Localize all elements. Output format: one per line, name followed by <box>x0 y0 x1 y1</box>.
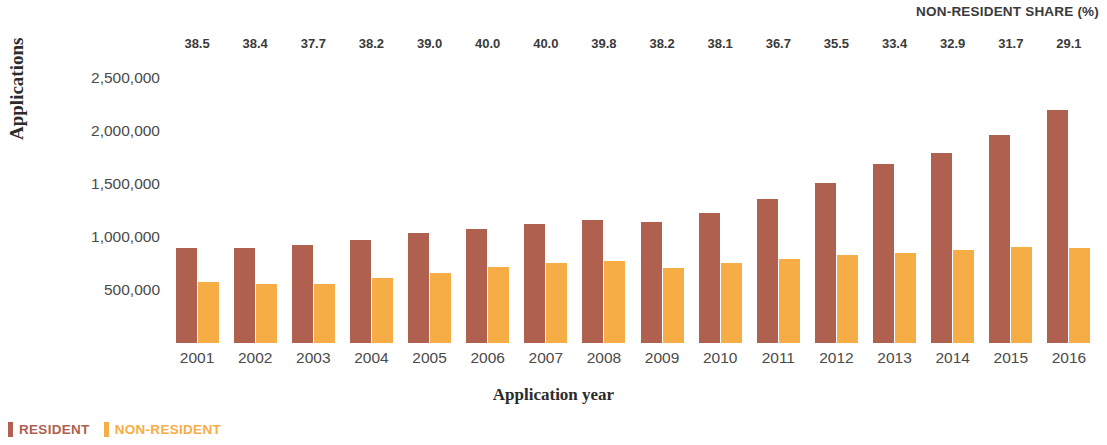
bar-resident[interactable] <box>234 248 255 343</box>
bar-group <box>989 62 1032 343</box>
bar-resident[interactable] <box>989 135 1010 343</box>
bar-resident[interactable] <box>466 229 487 343</box>
bar-resident[interactable] <box>931 153 952 343</box>
y-tick-label: 1,000,000 <box>48 228 160 246</box>
bar-resident[interactable] <box>757 199 778 343</box>
non-resident-share-header: NON-RESIDENT SHARE (%) <box>916 4 1099 19</box>
share-percent-label: 35.5 <box>807 36 865 51</box>
bar-group <box>1047 62 1090 343</box>
legend-swatch-icon <box>8 422 13 437</box>
bar-group <box>292 62 335 343</box>
x-tick-label: 2014 <box>924 349 982 367</box>
bar-group <box>757 62 800 343</box>
bar-group <box>466 62 509 343</box>
share-percent-label: 40.0 <box>459 36 517 51</box>
share-percent-label: 31.7 <box>982 36 1040 51</box>
share-percent-label: 38.2 <box>633 36 691 51</box>
share-percent-label: 33.4 <box>866 36 924 51</box>
bar-non-resident[interactable] <box>604 261 625 343</box>
bar-non-resident[interactable] <box>663 268 684 343</box>
x-tick-label: 2015 <box>982 349 1040 367</box>
share-percent-label: 29.1 <box>1040 36 1098 51</box>
share-percent-row: 38.538.437.738.239.040.040.039.838.238.1… <box>0 36 1107 54</box>
x-tick-label: 2011 <box>749 349 807 367</box>
bar-group <box>350 62 393 343</box>
x-tick-label: 2012 <box>807 349 865 367</box>
bar-resident[interactable] <box>815 183 836 343</box>
legend-label: RESIDENT <box>19 422 90 437</box>
x-tick-label: 2009 <box>633 349 691 367</box>
legend-item[interactable]: RESIDENT <box>8 422 90 437</box>
x-tick-label: 2001 <box>168 349 226 367</box>
x-axis-title: Application year <box>0 385 1107 405</box>
share-percent-label: 38.5 <box>168 36 226 51</box>
bar-group <box>641 62 684 343</box>
x-tick-label: 2005 <box>401 349 459 367</box>
bar-resident[interactable] <box>524 224 545 343</box>
x-tick-label: 2003 <box>284 349 342 367</box>
share-percent-label: 37.7 <box>284 36 342 51</box>
x-tick-label: 2004 <box>342 349 400 367</box>
bar-resident[interactable] <box>176 248 197 343</box>
bar-non-resident[interactable] <box>721 263 742 343</box>
bar-group <box>524 62 567 343</box>
y-axis-title: Applications <box>6 0 28 140</box>
bar-non-resident[interactable] <box>546 263 567 343</box>
legend-swatch-icon <box>104 422 109 437</box>
y-tick-label: 1,500,000 <box>48 175 160 193</box>
bar-group <box>234 62 277 343</box>
bar-group <box>699 62 742 343</box>
bar-non-resident[interactable] <box>895 253 916 343</box>
x-tick-label: 2013 <box>866 349 924 367</box>
bar-resident[interactable] <box>1047 110 1068 343</box>
bar-non-resident[interactable] <box>779 259 800 343</box>
bar-resident[interactable] <box>582 220 603 343</box>
x-tick-label: 2016 <box>1040 349 1098 367</box>
chart-legend: RESIDENTNON-RESIDENT <box>8 422 221 437</box>
y-tick-label: 500,000 <box>48 281 160 299</box>
share-percent-label: 38.2 <box>342 36 400 51</box>
bar-group <box>176 62 219 343</box>
x-tick-label: 2002 <box>226 349 284 367</box>
bar-group <box>408 62 451 343</box>
bar-non-resident[interactable] <box>430 273 451 344</box>
x-tick-label: 2007 <box>517 349 575 367</box>
bar-non-resident[interactable] <box>256 284 277 343</box>
y-tick-label: 2,000,000 <box>48 122 160 140</box>
bar-resident[interactable] <box>641 222 662 343</box>
x-tick-label: 2010 <box>691 349 749 367</box>
share-percent-label: 38.1 <box>691 36 749 51</box>
bar-non-resident[interactable] <box>198 282 219 343</box>
y-tick-label: 2,500,000 <box>48 69 160 87</box>
share-percent-label: 36.7 <box>749 36 807 51</box>
share-percent-label: 38.4 <box>226 36 284 51</box>
bar-resident[interactable] <box>699 213 720 343</box>
bar-non-resident[interactable] <box>314 284 335 343</box>
bar-resident[interactable] <box>292 245 313 343</box>
bar-non-resident[interactable] <box>488 267 509 343</box>
bar-non-resident[interactable] <box>953 250 974 343</box>
plot-area <box>168 62 1098 343</box>
bar-non-resident[interactable] <box>837 255 858 343</box>
bar-resident[interactable] <box>873 164 894 343</box>
share-percent-label: 39.0 <box>401 36 459 51</box>
bar-group <box>873 62 916 343</box>
bar-non-resident[interactable] <box>1069 248 1090 343</box>
bar-non-resident[interactable] <box>372 278 393 343</box>
share-percent-label: 32.9 <box>924 36 982 51</box>
bar-resident[interactable] <box>350 240 371 343</box>
legend-item[interactable]: NON-RESIDENT <box>104 422 221 437</box>
bar-group <box>582 62 625 343</box>
share-percent-label: 39.8 <box>575 36 633 51</box>
chart-figure: NON-RESIDENT SHARE (%) 38.538.437.738.23… <box>0 0 1107 445</box>
x-tick-label: 2006 <box>459 349 517 367</box>
share-percent-label: 40.0 <box>517 36 575 51</box>
legend-label: NON-RESIDENT <box>115 422 221 437</box>
bar-resident[interactable] <box>408 233 429 343</box>
bar-group <box>931 62 974 343</box>
bar-non-resident[interactable] <box>1011 247 1032 343</box>
bar-group <box>815 62 858 343</box>
x-tick-label: 2008 <box>575 349 633 367</box>
